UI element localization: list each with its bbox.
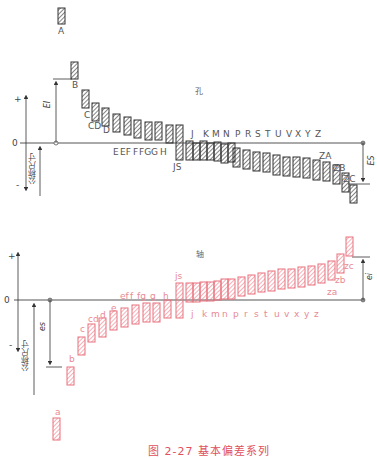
deviation-bar bbox=[58, 8, 65, 24]
deviation-label: Y bbox=[305, 130, 311, 139]
deviation-bar bbox=[186, 141, 193, 160]
deviation-bar bbox=[214, 281, 221, 300]
deviation-label: zb bbox=[335, 276, 345, 285]
deviation-bar bbox=[263, 153, 270, 172]
deviation-label: K bbox=[203, 130, 209, 139]
deviation-bar bbox=[71, 62, 78, 79]
deviation-bar bbox=[200, 282, 207, 301]
deviation-label: zc bbox=[344, 262, 354, 271]
deviation-bar bbox=[99, 318, 106, 337]
deviation-label: T bbox=[265, 130, 271, 139]
deviation-bar bbox=[288, 269, 295, 288]
deviation-label: CD bbox=[88, 122, 101, 131]
deviation-label: P bbox=[235, 130, 240, 139]
deviation-bar bbox=[323, 162, 330, 181]
deviation-bar bbox=[308, 266, 315, 285]
deviation-bar bbox=[82, 90, 89, 108]
deviation-bar bbox=[243, 150, 250, 169]
deviation-bar bbox=[200, 141, 207, 160]
deviation-label: fg bbox=[137, 292, 146, 301]
deviation-bar bbox=[238, 277, 245, 296]
deviation-label: n bbox=[222, 310, 228, 319]
deviation-bar bbox=[193, 143, 200, 160]
deviation-bar bbox=[110, 311, 117, 330]
deviation-label: f bbox=[130, 292, 133, 301]
deviation-bar bbox=[124, 117, 131, 135]
shaft-ei-label: ei bbox=[365, 273, 374, 280]
deviation-bar bbox=[153, 303, 160, 322]
deviation-bar bbox=[121, 308, 128, 327]
deviation-label: b bbox=[69, 355, 75, 364]
hole-minus-label: - bbox=[16, 180, 19, 190]
deviation-label: M bbox=[212, 130, 220, 139]
deviation-bar bbox=[248, 275, 255, 294]
deviation-label: m bbox=[211, 310, 220, 319]
deviation-label: u bbox=[274, 310, 280, 319]
shaft-plus-label: + bbox=[8, 251, 16, 261]
deviation-label: t bbox=[264, 310, 268, 319]
deviation-bar bbox=[176, 283, 183, 318]
deviation-bar bbox=[143, 303, 150, 322]
deviation-label: s bbox=[254, 310, 259, 319]
deviation-bar bbox=[303, 158, 310, 178]
hole-title: 孔 bbox=[195, 85, 203, 96]
deviation-label: F bbox=[133, 148, 138, 157]
deviation-bar bbox=[176, 125, 183, 160]
deviation-bar bbox=[207, 282, 214, 301]
deviation-label: r bbox=[244, 310, 248, 319]
deviation-bar bbox=[186, 283, 193, 302]
deviation-label: g bbox=[150, 292, 156, 301]
deviation-label: a bbox=[55, 408, 61, 417]
hole-deviation-bars bbox=[58, 8, 357, 203]
deviation-label: cd bbox=[88, 315, 99, 324]
deviation-label: D bbox=[103, 126, 110, 135]
deviation-bar bbox=[278, 269, 285, 289]
deviation-label: EF bbox=[120, 148, 131, 157]
shaft-deviation-bars bbox=[53, 237, 353, 440]
deviation-label: z bbox=[314, 310, 319, 319]
deviation-bar bbox=[155, 122, 162, 140]
deviation-bar bbox=[145, 122, 152, 140]
deviation-label: FG bbox=[139, 148, 151, 157]
deviation-label: j bbox=[191, 310, 194, 319]
deviation-label: za bbox=[327, 288, 337, 297]
deviation-bar bbox=[233, 148, 240, 167]
deviation-bar bbox=[337, 254, 344, 273]
deviation-label: k bbox=[202, 310, 207, 319]
hole-plus-label: + bbox=[14, 94, 22, 104]
deviation-bar bbox=[207, 143, 214, 160]
deviation-label: R bbox=[245, 130, 251, 139]
deviation-label: d bbox=[100, 311, 106, 320]
deviation-label: JS bbox=[173, 163, 181, 172]
deviation-label: y bbox=[304, 310, 309, 319]
hole-EI-label: EI bbox=[43, 101, 52, 108]
deviation-bar bbox=[258, 273, 265, 292]
deviation-label: N bbox=[223, 130, 230, 139]
deviation-bar bbox=[214, 142, 221, 161]
deviation-bar bbox=[221, 279, 228, 299]
deviation-bar bbox=[268, 271, 275, 291]
deviation-bar bbox=[67, 367, 74, 385]
deviation-label: ZA bbox=[319, 152, 331, 161]
deviation-label: J bbox=[191, 130, 194, 139]
deviation-bar bbox=[253, 152, 260, 171]
deviation-bar bbox=[78, 337, 85, 355]
deviation-bar bbox=[134, 120, 141, 138]
hole-zero-label: 0 bbox=[12, 138, 18, 148]
deviation-label: ZB bbox=[333, 164, 345, 173]
shaft-minus-label: - bbox=[9, 340, 12, 350]
deviation-bar bbox=[53, 418, 60, 440]
hole-nominal-size-label: 公称尺寸 bbox=[27, 153, 38, 185]
deviation-bar bbox=[283, 157, 290, 176]
deviation-label: E bbox=[113, 148, 119, 157]
shaft-es-label: es bbox=[38, 322, 47, 331]
deviation-bar bbox=[298, 267, 305, 287]
deviation-label: c bbox=[80, 325, 85, 334]
deviation-label: C bbox=[84, 111, 90, 120]
figure-caption: 图 2-27 基本偏差系列 bbox=[148, 442, 270, 458]
deviation-bar bbox=[350, 185, 357, 203]
hole-ES-label: ES bbox=[367, 155, 376, 165]
deviation-label: H bbox=[160, 148, 167, 157]
shaft-nominal-size-label: 公称尺寸 bbox=[20, 340, 31, 372]
